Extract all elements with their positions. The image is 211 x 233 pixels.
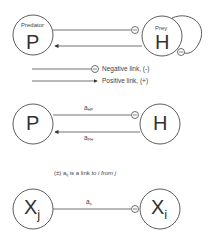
p-symbol: P	[26, 112, 39, 135]
prey-symbol: H	[155, 31, 169, 54]
predator-label: Predator	[21, 22, 44, 28]
h-symbol: H	[153, 112, 167, 135]
label-a-ph: aPH	[84, 134, 93, 142]
predator-symbol: P	[26, 31, 39, 54]
caption: (±) aij is a link to i from j	[54, 170, 116, 177]
label-a-hp: aHP	[84, 104, 93, 112]
xj-symbol: Xj	[24, 196, 40, 222]
label-a-ij: aij	[86, 198, 91, 206]
legend-negative-label: Negative link, (-)	[102, 65, 149, 72]
prey-self-loop	[172, 16, 202, 53]
legend-positive-label: Positive link, (+)	[102, 77, 148, 84]
xi-symbol: Xi	[151, 196, 167, 222]
